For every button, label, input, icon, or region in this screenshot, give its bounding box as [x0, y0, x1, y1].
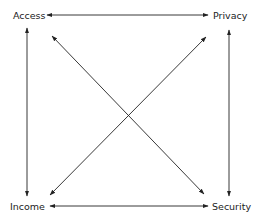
nodes-group: Access Privacy Income Security [10, 10, 251, 212]
node-label-income: Income [10, 201, 45, 212]
node-label-security: Security [212, 201, 251, 212]
node-label-privacy: Privacy [213, 10, 248, 21]
relationship-diagram: Access Privacy Income Security [0, 0, 259, 222]
node-label-access: Access [13, 10, 46, 21]
edges-group [27, 15, 229, 206]
